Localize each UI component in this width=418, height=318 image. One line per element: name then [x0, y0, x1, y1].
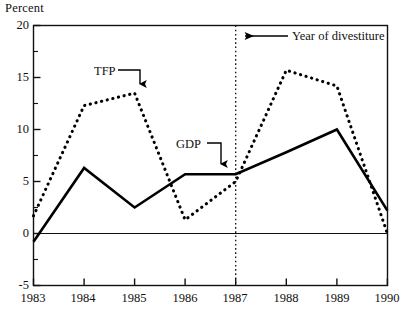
series-line-gdp [34, 130, 388, 242]
chart-canvas [0, 0, 418, 318]
series-line-tfp [34, 70, 388, 233]
chart-figure: Percent 20 15 10 5 0 -5 1983 1984 1985 1… [0, 0, 418, 318]
x-axis-ticks [34, 279, 388, 286]
annotation-leader-gdp [207, 143, 221, 164]
annotation-leader-tfp [118, 70, 140, 84]
plot-frame [34, 26, 388, 286]
